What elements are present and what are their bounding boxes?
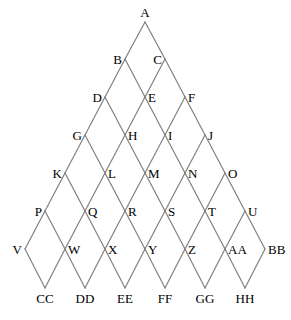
node-label-p: P xyxy=(35,205,42,218)
node-label-l: L xyxy=(108,167,116,180)
lattice-edge-bb-hh xyxy=(245,249,265,288)
node-label-gg: GG xyxy=(196,292,215,305)
node-label-m: M xyxy=(148,167,160,180)
node-label-j: J xyxy=(208,129,213,142)
node-label-r: R xyxy=(128,205,137,218)
node-label-n: N xyxy=(188,167,197,180)
node-label-f: F xyxy=(188,91,195,104)
node-label-a: A xyxy=(140,6,149,19)
node-label-dd: DD xyxy=(76,292,95,305)
node-label-bb: BB xyxy=(268,243,285,256)
node-label-d: D xyxy=(93,91,102,104)
lattice-edge-v-cc xyxy=(25,249,45,288)
lattice-edges-layer xyxy=(0,0,291,320)
node-label-c: C xyxy=(153,53,162,66)
node-label-ff: FF xyxy=(158,292,172,305)
node-label-ee: EE xyxy=(117,292,133,305)
lattice-edge-c-f xyxy=(165,59,185,97)
node-label-aa: AA xyxy=(228,243,247,256)
lattice-edge-z-ff xyxy=(165,249,185,288)
lattice-edge-g-l xyxy=(85,135,105,173)
node-label-h: H xyxy=(128,129,137,142)
node-label-s: S xyxy=(168,205,175,218)
lattice-edge-d-h xyxy=(105,97,125,135)
node-label-u: U xyxy=(248,205,257,218)
lattice-edge-a-b xyxy=(125,22,145,59)
node-label-z: Z xyxy=(188,243,196,256)
node-label-v: V xyxy=(13,243,22,256)
node-label-cc: CC xyxy=(36,292,53,305)
node-label-x: X xyxy=(108,243,117,256)
lattice-edge-b-e xyxy=(125,59,145,97)
node-label-g: G xyxy=(73,129,82,142)
node-label-b: B xyxy=(113,53,122,66)
node-label-k: K xyxy=(53,167,62,180)
node-label-y: Y xyxy=(148,243,157,256)
node-label-q: Q xyxy=(88,205,97,218)
lattice-diagram: ABCDEFGHIJKLMNOPQRSTUVWXYZAABBCCDDEEFFGG… xyxy=(0,0,291,320)
node-label-e: E xyxy=(148,91,156,104)
node-label-o: O xyxy=(228,167,237,180)
node-label-i: I xyxy=(168,129,172,142)
lattice-edge-y-ee xyxy=(125,249,145,288)
node-label-t: T xyxy=(208,205,216,218)
lattice-edge-p-w xyxy=(45,211,65,249)
node-label-hh: HH xyxy=(236,292,255,305)
lattice-edge-k-q xyxy=(65,173,85,211)
node-label-w: W xyxy=(68,243,80,256)
lattice-edge-aa-gg xyxy=(205,249,225,288)
lattice-edge-x-dd xyxy=(85,249,105,288)
lattice-edge-w-cc xyxy=(45,249,65,288)
